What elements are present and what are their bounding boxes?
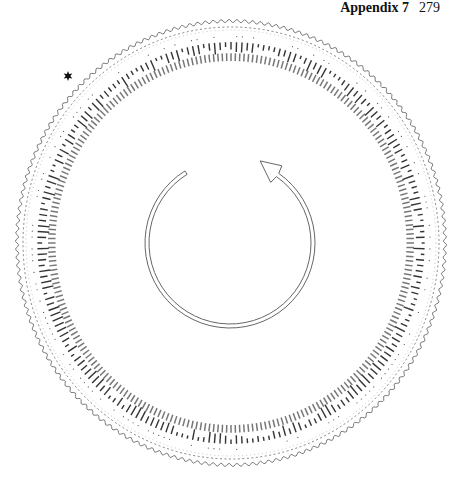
chronology-wheel [0,0,452,477]
wavy-outer-border [15,19,446,466]
center-cycle-arrow-icon [145,161,315,328]
name-labels-ring [31,36,430,450]
star-marker-icon [64,71,73,81]
dashed-ring [23,27,439,459]
year-labels-ring [48,53,414,433]
